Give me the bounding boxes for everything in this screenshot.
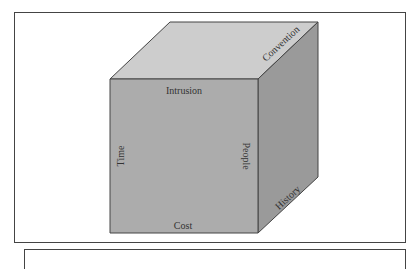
label-cost: Cost: [174, 220, 193, 231]
label-people: People: [241, 142, 252, 170]
label-time: Time: [115, 145, 126, 166]
cube-front-face: [110, 79, 258, 233]
label-intrusion: Intrusion: [166, 85, 202, 96]
